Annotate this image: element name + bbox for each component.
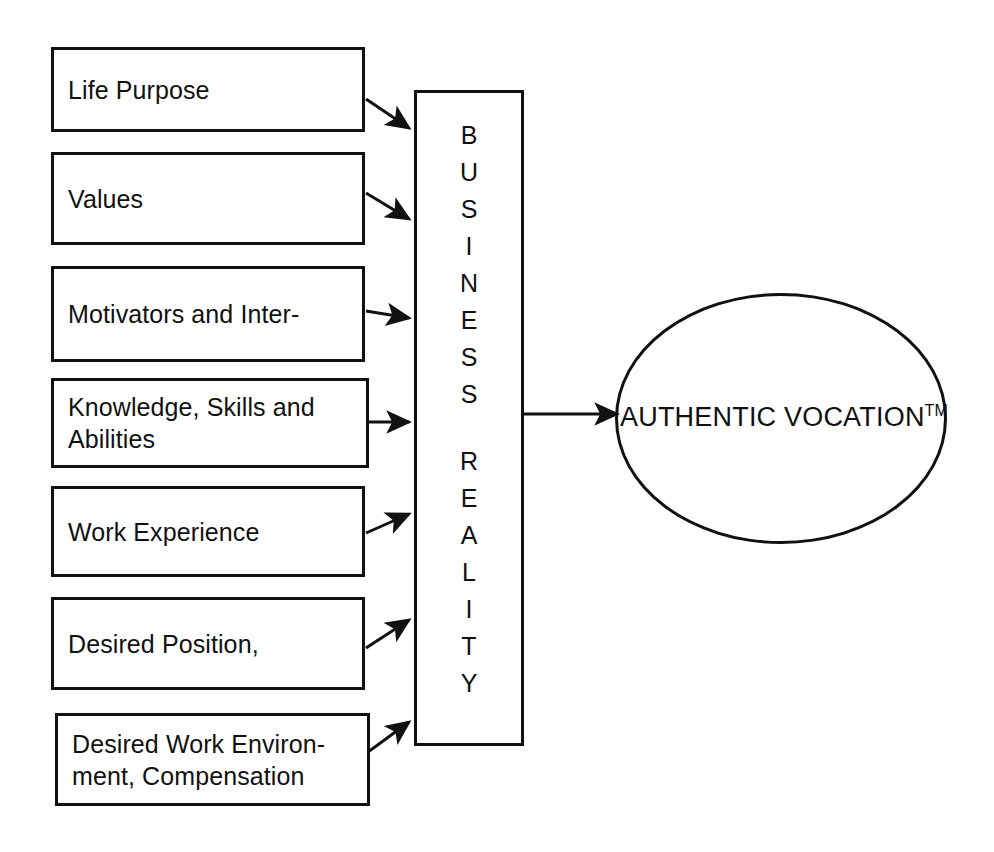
input-box-motivators[interactable]: Motivators and Inter- <box>51 266 365 362</box>
input-box-values[interactable]: Values <box>51 152 365 245</box>
input-box-desired-position[interactable]: Desired Position, <box>51 597 365 690</box>
business-reality-box[interactable]: B U S I N E S S R E A L I T Y <box>414 90 524 746</box>
letter: L <box>462 554 476 591</box>
letter: E <box>461 480 478 517</box>
letter: E <box>461 302 478 339</box>
input-box-knowledge-skills[interactable]: Knowledge, Skills and Abilities <box>51 378 369 468</box>
input-box-label: Desired Work Environ- ment, Compensation <box>72 728 325 792</box>
authentic-vocation-label: AUTHENTIC VOCATIONTM <box>620 402 942 433</box>
outcome-label-text: AUTHENTIC VOCATION <box>620 402 925 432</box>
input-box-label: Desired Position, <box>68 628 259 660</box>
connector-values <box>366 193 409 219</box>
diagram-canvas: Life Purpose Values Motivators and Inter… <box>0 0 994 852</box>
letter: T <box>461 628 476 665</box>
input-box-label: Motivators and Inter- <box>68 298 299 330</box>
letter: S <box>461 376 478 413</box>
business-reality-word-business: B U S I N E S S <box>460 117 478 413</box>
input-box-life-purpose[interactable]: Life Purpose <box>51 47 365 132</box>
letter: S <box>461 339 478 376</box>
letter: B <box>461 117 478 154</box>
connector-desired-environment <box>368 722 409 752</box>
connector-work-experience <box>366 514 409 533</box>
connector-desired-position <box>366 620 409 648</box>
letter: I <box>466 591 473 628</box>
input-box-desired-environment[interactable]: Desired Work Environ- ment, Compensation <box>55 713 370 806</box>
business-reality-word-reality: R E A L I T Y <box>460 443 478 702</box>
letter: A <box>461 517 478 554</box>
letter: Y <box>461 665 478 702</box>
input-box-label: Life Purpose <box>68 74 210 106</box>
letter: R <box>460 443 478 480</box>
letter: N <box>460 265 478 302</box>
connector-life-purpose <box>366 99 409 128</box>
input-box-label: Work Experience <box>68 516 259 548</box>
letter: S <box>461 191 478 228</box>
connector-motivators <box>366 311 409 318</box>
letter: U <box>460 154 478 191</box>
letter: I <box>466 228 473 265</box>
input-box-label: Knowledge, Skills and Abilities <box>68 391 315 455</box>
trademark-symbol: TM <box>925 402 948 419</box>
input-box-work-experience[interactable]: Work Experience <box>51 486 365 577</box>
input-box-label: Values <box>68 183 143 215</box>
